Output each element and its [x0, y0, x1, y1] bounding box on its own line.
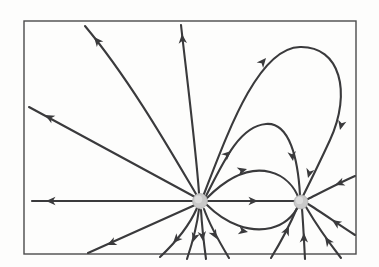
- field-line-path: [204, 209, 229, 258]
- field-line: [308, 204, 355, 235]
- field-line-canvas: [0, 0, 379, 267]
- field-line: [308, 176, 355, 199]
- field-line-figure: [0, 0, 379, 267]
- field-line: [85, 26, 196, 194]
- negative-charge: [294, 195, 308, 209]
- field-line-arrowhead: [105, 237, 117, 249]
- field-line: [88, 205, 195, 253]
- field-line-path: [207, 171, 299, 199]
- field-line-path: [207, 205, 299, 229]
- field-line: [160, 208, 197, 257]
- field-line-arrowhead: [333, 178, 345, 189]
- field-line-path: [302, 209, 305, 259]
- charge-dot-highlight: [296, 197, 303, 204]
- diagram-border: [24, 21, 356, 254]
- field-line: [300, 209, 309, 259]
- field-line-path: [88, 205, 195, 253]
- field-line: [208, 197, 294, 205]
- field-lines-group: [29, 25, 355, 259]
- field-line: [204, 209, 229, 258]
- positive-charge: [193, 194, 208, 209]
- field-line-path: [85, 26, 196, 194]
- field-line-path: [308, 176, 355, 199]
- field-line: [207, 165, 299, 199]
- field-line-path: [308, 204, 355, 235]
- field-line: [271, 208, 297, 258]
- field-line-path: [271, 208, 297, 258]
- field-line-path: [160, 208, 197, 257]
- field-line-path: [181, 25, 199, 193]
- charge-dot-highlight: [194, 195, 202, 203]
- field-line: [32, 197, 194, 205]
- field-line-arrowhead: [281, 224, 293, 236]
